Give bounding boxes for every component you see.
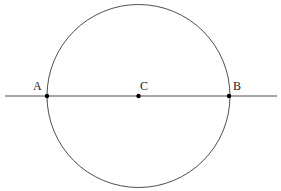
point-label-a: A [33,80,42,92]
point-a-marker [45,94,49,98]
point-b-marker [227,94,231,98]
point-label-c: C [140,80,148,92]
geometry-figure: A C B [0,0,281,191]
point-label-b: B [233,80,241,92]
point-c-marker [136,94,140,98]
geometry-canvas [0,0,281,191]
